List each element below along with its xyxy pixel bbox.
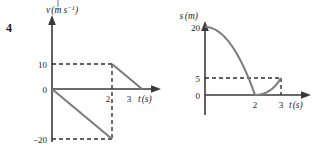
y-tick-5: 5 — [196, 74, 201, 84]
plot-curve-phase2 — [255, 78, 281, 95]
x-axis-label: t(s) — [138, 94, 152, 105]
x-tick-2: 2 — [253, 100, 258, 110]
x-axis-arrowhead — [301, 91, 311, 99]
y-tick-20: 20 — [191, 23, 201, 33]
x-axis-label: t(s) — [289, 100, 303, 111]
y-tick-0: 0 — [196, 91, 201, 101]
y-tick-minus20: −20 — [33, 135, 48, 145]
y-axis-label: s(m) — [180, 11, 198, 22]
worksheet-page: 4 v(m s−1) t(s) — [0, 0, 323, 149]
y-tick-10: 10 — [38, 60, 48, 70]
y-tick-0: 0 — [43, 85, 48, 95]
x-tick-2: 2 — [106, 94, 111, 104]
x-tick-3: 3 — [279, 100, 284, 110]
x-axis-arrowhead — [151, 85, 161, 93]
plot-curve-phase1 — [205, 27, 255, 95]
y-axis-arrowhead — [48, 15, 56, 25]
plot-segment-phase2 — [112, 64, 142, 89]
displacement-time-figure: s(m) t(s) 20 5 0 2 3 — [176, 10, 323, 128]
plot-segment-phase1 — [52, 89, 112, 139]
x-tick-3: 3 — [127, 94, 132, 104]
question-number: 4 — [6, 21, 12, 36]
y-axis-label: v(m s−1) — [46, 4, 78, 16]
velocity-time-figure: v(m s−1) t(s) 10 0 −20 2 3 — [26, 14, 166, 146]
